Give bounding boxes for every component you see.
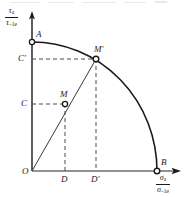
point-label-B: B — [161, 158, 167, 167]
point-label-C: C — [21, 99, 27, 108]
point-marker-M — [62, 101, 67, 106]
loading-path-ray — [32, 59, 96, 171]
x-axis-label: σa σ–1e — [156, 174, 170, 195]
point-label-A: A — [36, 30, 42, 39]
y-axis-numerator-sub: a — [12, 9, 14, 15]
y-axis-label: τa τ–1e — [5, 7, 18, 28]
point-label-D: D — [61, 175, 68, 184]
point-marker-Mprime — [93, 56, 99, 62]
x-axis-numerator-sub: a — [164, 176, 166, 182]
scan-artifact — [82, 2, 116, 3]
point-marker-A — [29, 39, 34, 44]
point-label-O: O — [22, 167, 29, 176]
point-label-Dprime: D′ — [91, 175, 99, 184]
scan-artifact — [155, 1, 167, 3]
point-label-Mprime: M′ — [94, 45, 103, 54]
y-axis-denominator-sub: –1e — [9, 21, 17, 27]
point-label-M: M — [60, 90, 68, 99]
scan-artifact — [48, 2, 74, 3]
scan-artifact — [124, 2, 146, 3]
scan-artifact — [10, 2, 40, 3]
x-axis-denominator-sub: –1e — [161, 188, 169, 194]
point-label-Cprime: C′ — [18, 54, 26, 63]
